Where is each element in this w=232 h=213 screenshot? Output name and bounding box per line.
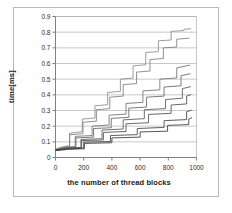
x-tick-label: 400	[97, 164, 127, 171]
y-tick-label: 0.1	[29, 138, 51, 145]
y-tick-label: 0.4	[29, 91, 51, 98]
y-tick-label: 0.3	[29, 107, 51, 114]
x-tick-label: 0	[41, 164, 71, 171]
x-tick-label: 800	[153, 164, 183, 171]
x-tick-label: 200	[69, 164, 99, 171]
x-axis-title: the number of thread blocks	[34, 178, 204, 187]
x-tick-label: 1000	[182, 164, 212, 171]
plot-area-wrapper: 00.10.20.30.40.50.60.70.80.9020040060080…	[0, 0, 232, 213]
y-tick-label: 0.9	[29, 13, 51, 20]
y-tick-label: 0.5	[29, 76, 51, 83]
y-axis-title: time[ms]	[7, 55, 16, 119]
y-tick-label: 0.6	[29, 60, 51, 67]
y-tick-label: 0	[29, 154, 51, 161]
y-tick-label: 0.2	[29, 123, 51, 130]
x-tick-label: 600	[125, 164, 155, 171]
y-tick-label: 0.7	[29, 44, 51, 51]
y-tick-label: 0.8	[29, 29, 51, 36]
chart-figure: 00.10.20.30.40.50.60.70.80.9020040060080…	[0, 0, 232, 213]
